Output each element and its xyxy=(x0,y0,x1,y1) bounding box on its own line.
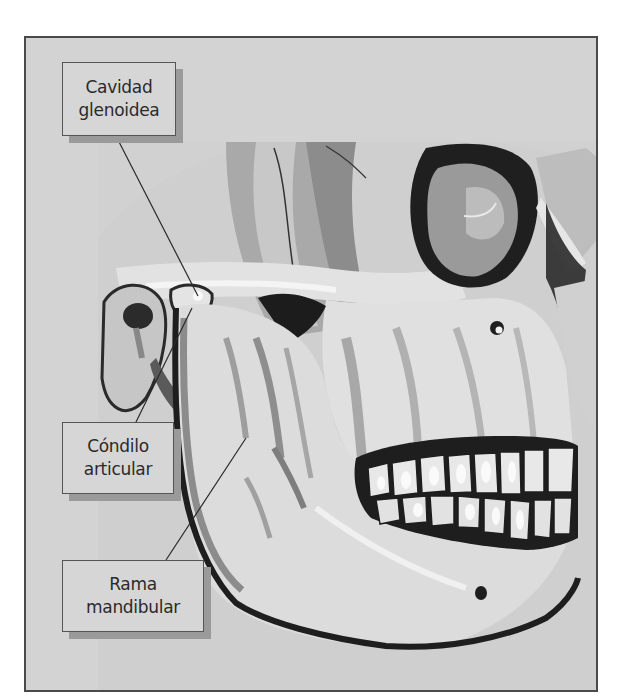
figure-frame: Cavidad glenoidea Cóndilo articular Rama… xyxy=(24,36,598,692)
label-line: Cavidad xyxy=(63,76,175,99)
label-line: Cóndilo xyxy=(63,435,173,458)
label-line: glenoidea xyxy=(63,99,175,122)
label-line: Rama xyxy=(63,573,203,596)
label-line: articular xyxy=(63,458,173,481)
label-rama-mandibular: Rama mandibular xyxy=(62,560,204,632)
label-line: mandibular xyxy=(63,596,203,619)
label-cavidad-glenoidea: Cavidad glenoidea xyxy=(62,62,176,136)
label-condilo-articular: Cóndilo articular xyxy=(62,422,174,494)
